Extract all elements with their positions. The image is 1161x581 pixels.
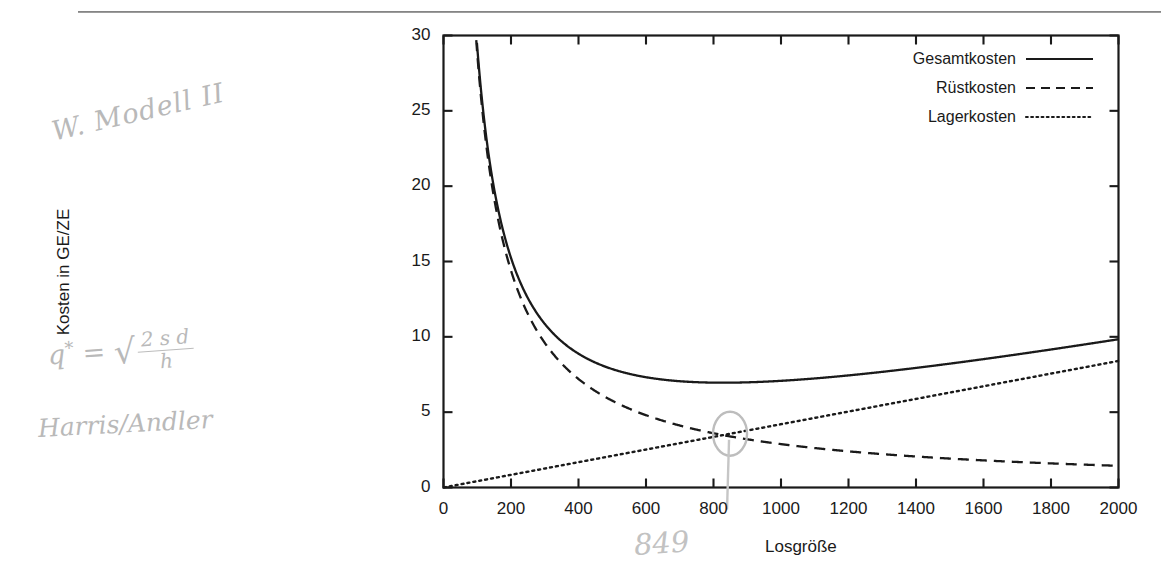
y-tick-label: 15 [391,251,431,271]
x-tick-label: 1200 [819,499,879,519]
legend-line-samples [1024,48,1114,148]
y-tick-label: 30 [391,25,431,45]
y-tick-label: 5 [391,401,431,421]
handwritten-optimum-marker [713,412,747,510]
axis-ticks [444,36,1119,488]
y-tick-label: 10 [391,326,431,346]
y-tick-label: 20 [391,175,431,195]
legend-item-label-ruestkosten: Rüstkosten [846,79,1016,97]
scanned-page: W. Modell II q* = √ 2 s d h Harris/Andle… [0,0,1161,581]
x-tick-label: 1400 [886,499,946,519]
x-tick-label: 200 [481,499,541,519]
y-tick-label: 25 [391,100,431,120]
x-tick-label: 400 [549,499,609,519]
eoq-cost-chart: Kosten in GE/ZE Losgröße 051015202530 02… [0,0,1161,581]
x-tick-label: 2000 [1089,499,1149,519]
x-tick-label: 800 [684,499,744,519]
x-tick-label: 1000 [751,499,811,519]
x-tick-label: 0 [414,499,474,519]
x-tick-label: 1600 [954,499,1014,519]
y-tick-label: 0 [391,477,431,497]
data-curves [444,40,1118,487]
legend-item-label-gesamtkosten: Gesamtkosten [846,50,1016,68]
plot-frame [444,36,1119,488]
x-tick-label: 1800 [1021,499,1081,519]
legend-item-label-lagerkosten: Lagerkosten [846,108,1016,126]
x-tick-label: 600 [616,499,676,519]
